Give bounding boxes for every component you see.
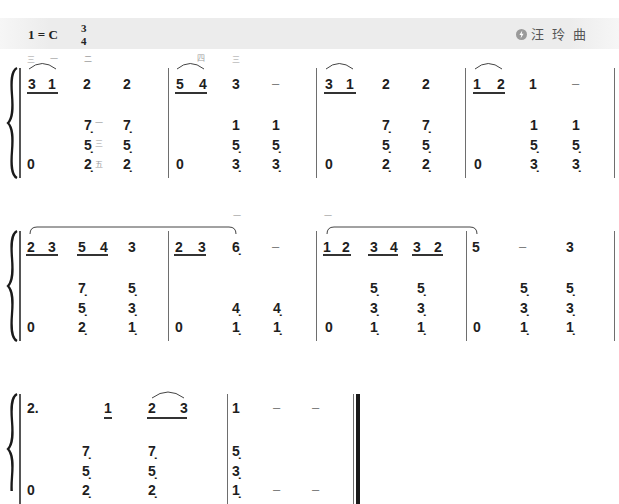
accompaniment-note: 7̣ bbox=[123, 118, 131, 132]
accompaniment-note: 1̣ bbox=[520, 320, 528, 334]
eighth-underline bbox=[77, 254, 108, 256]
accompaniment-note: 5̣ bbox=[148, 464, 156, 478]
grand-staff-brace bbox=[8, 394, 17, 491]
accompaniment-note: 5̣ bbox=[128, 281, 136, 295]
melody-note: 2 bbox=[497, 77, 505, 91]
slur bbox=[152, 392, 184, 398]
slur bbox=[475, 64, 502, 70]
accompaniment-note: 5̣ bbox=[123, 138, 131, 152]
rest: 0 bbox=[325, 157, 333, 171]
rest: 0 bbox=[176, 157, 184, 171]
melody-note: 2 bbox=[422, 77, 430, 91]
barline bbox=[19, 394, 21, 504]
sustain-dash: – bbox=[272, 77, 279, 91]
fingering-mark: 一 bbox=[50, 56, 58, 64]
eighth-underline bbox=[27, 92, 58, 94]
eighth-underline bbox=[174, 254, 206, 256]
accompaniment-note: 1̣ bbox=[128, 320, 136, 334]
accompaniment-note: 1 bbox=[572, 118, 580, 132]
accompaniment-note: 1̣ bbox=[232, 320, 240, 334]
accompaniment-note: 3̣ bbox=[232, 157, 240, 171]
melody-note: 1 bbox=[529, 77, 537, 91]
melody-note: 1 bbox=[232, 401, 240, 415]
fingering-mark: 三 bbox=[95, 140, 103, 148]
barline bbox=[316, 68, 317, 178]
accompaniment-note: 2̣ bbox=[123, 157, 131, 171]
rest: 0 bbox=[27, 320, 35, 334]
melody-note: 1 bbox=[473, 77, 481, 91]
accompaniment-note: 5̣ bbox=[370, 281, 378, 295]
accompaniment-note: 3̣ bbox=[520, 301, 528, 315]
eighth-underline bbox=[368, 254, 398, 256]
melody-note-dotted: 2. bbox=[27, 401, 39, 415]
accompaniment-note: 5̣ bbox=[232, 444, 240, 458]
fingering-mark: 一 bbox=[324, 213, 332, 221]
accompaniment-note: 5̣ bbox=[272, 138, 280, 152]
sustain-dash: – bbox=[312, 483, 319, 497]
accompaniment-note: 7̣ bbox=[82, 444, 90, 458]
melody-note: 3 bbox=[180, 401, 188, 415]
barline bbox=[19, 231, 21, 341]
melody-note: 2 bbox=[123, 77, 131, 91]
sustain-dash: – bbox=[273, 483, 280, 497]
eighth-underline bbox=[324, 92, 356, 94]
accompaniment-note: 3̣ bbox=[566, 301, 574, 315]
accompaniment-note: 5̣ bbox=[382, 138, 390, 152]
melody-note: 4 bbox=[100, 240, 108, 254]
accompaniment-note: 5̣ bbox=[422, 138, 430, 152]
accompaniment-note: 3̣ bbox=[370, 301, 378, 315]
accompaniment-note: 5̣ bbox=[417, 281, 425, 295]
accompaniment-note: 2̣ bbox=[422, 157, 430, 171]
accompaniment-note: 1 bbox=[232, 118, 240, 132]
accompaniment-note: 2̣ bbox=[78, 320, 86, 334]
accompaniment-note: 5̣ bbox=[566, 281, 574, 295]
accompaniment-note: 1 bbox=[272, 118, 280, 132]
fingering-mark: 三 bbox=[232, 56, 240, 64]
melody-note: 1 bbox=[346, 77, 354, 91]
melody-note: 2 bbox=[148, 401, 156, 415]
barline bbox=[614, 68, 615, 178]
accompaniment-note: 2̣ bbox=[148, 483, 156, 497]
eighth-underline bbox=[26, 254, 58, 256]
sustain-dash: – bbox=[572, 77, 579, 91]
sustain-dash: – bbox=[273, 401, 280, 415]
rest: 0 bbox=[474, 157, 482, 171]
fingering-mark: 二 bbox=[84, 56, 92, 64]
accompaniment-note: 5̣ bbox=[84, 138, 92, 152]
accompaniment-note: 7̣ bbox=[84, 118, 92, 132]
eighth-underline bbox=[323, 254, 351, 256]
accompaniment-note: 4̣ bbox=[232, 301, 240, 315]
phrase-bracket bbox=[327, 227, 477, 234]
accompaniment-note: 7̣ bbox=[148, 444, 156, 458]
final-barline-thick bbox=[356, 394, 360, 504]
accompaniment-note: 3̣ bbox=[417, 301, 425, 315]
fingering-mark: 一 bbox=[95, 120, 103, 128]
accompaniment-note: 1̣ bbox=[232, 483, 240, 497]
accompaniment-note: 1̣ bbox=[417, 320, 425, 334]
rest: 0 bbox=[27, 157, 35, 171]
final-barline-thin bbox=[353, 394, 354, 504]
accompaniment-note: 7̣ bbox=[382, 118, 390, 132]
grand-staff-brace bbox=[8, 231, 17, 341]
rest: 0 bbox=[175, 320, 183, 334]
accompaniment-note: 3̣ bbox=[272, 157, 280, 171]
melody-note: 2 bbox=[382, 77, 390, 91]
melody-note: 3 bbox=[566, 240, 574, 254]
barline bbox=[168, 68, 169, 178]
accompaniment-note: 7̣ bbox=[78, 281, 86, 295]
melody-note: 3 bbox=[48, 240, 56, 254]
melody-note: 3 bbox=[232, 77, 240, 91]
barline bbox=[19, 68, 21, 178]
eighth-underline bbox=[473, 92, 505, 94]
accompaniment-note: 5̣ bbox=[78, 301, 86, 315]
accompaniment-note: 2̣ bbox=[82, 483, 90, 497]
sustain-dash: – bbox=[272, 240, 279, 254]
melody-note: 2 bbox=[27, 240, 35, 254]
accompaniment-note: 3̣ bbox=[128, 301, 136, 315]
accompaniment-note: 1̣ bbox=[370, 320, 378, 334]
melody-note: 2 bbox=[83, 77, 91, 91]
accompaniment-note: 5̣ bbox=[82, 464, 90, 478]
accompaniment-note: 7̣ bbox=[422, 118, 430, 132]
eighth-underline bbox=[104, 417, 112, 419]
rest: 0 bbox=[473, 320, 481, 334]
